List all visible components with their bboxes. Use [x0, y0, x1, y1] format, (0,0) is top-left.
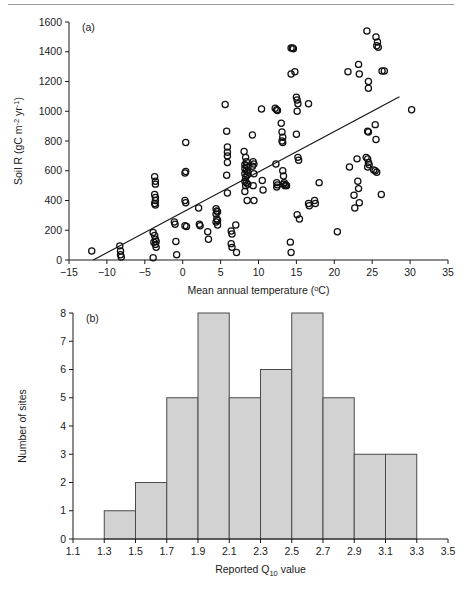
panel-a-y-tick-label: 200 — [44, 224, 62, 236]
panel-a-data-point — [355, 61, 361, 67]
panel-b-x-tick-label: 3.5 — [441, 545, 456, 557]
panel-a-x-tick-label: 25 — [366, 266, 378, 278]
panel-a-data-point — [409, 107, 415, 113]
panel-a-y-tick-label: 1400 — [39, 45, 63, 57]
panel-b-bar — [292, 313, 323, 539]
panel-a-data-point — [293, 131, 299, 137]
panel-a-data-point — [355, 186, 361, 192]
panel-a-data-point — [174, 252, 180, 258]
panel-a-data-point — [356, 200, 362, 206]
panel-a-y-tick-label: 400 — [44, 194, 62, 206]
panel-a-data-point — [294, 108, 300, 114]
panel-a-x-tick-label: 0 — [180, 266, 186, 278]
panel-a-x-axis-title: Mean annual temperature (oC) — [188, 284, 330, 296]
panel-a-data-point — [352, 205, 358, 211]
panel-b-x-tick-label: 2.7 — [316, 545, 331, 557]
panel-b-bar — [198, 313, 229, 539]
panel-a-x-tick-label: 15 — [291, 266, 303, 278]
panel-a-label: (a) — [82, 21, 95, 33]
panel-a-data-point — [89, 248, 95, 254]
panel-b-x-tick-label: 3.1 — [378, 545, 393, 557]
panel-a-data-point — [224, 128, 230, 134]
panel-a-data-point — [316, 180, 322, 186]
panel-b-y-tick-label: 8 — [60, 307, 66, 319]
panel-a-data-point — [260, 187, 266, 193]
panel-b-y-tick-label: 3 — [60, 448, 66, 460]
panel-b-bar — [229, 398, 260, 539]
panel-a-data-point — [251, 197, 257, 203]
panel-a-data-point — [224, 190, 230, 196]
panel-a-data-point — [355, 178, 361, 184]
panel-a-data-point — [233, 222, 239, 228]
panel-a-data-point — [249, 132, 255, 138]
panel-b-label: (b) — [86, 312, 99, 324]
panel-b-x-axis-title: Reported Q10 value — [215, 563, 306, 578]
panel-a-x-tick-label: 10 — [253, 266, 265, 278]
panel-b-x-tick-label: 3.3 — [409, 545, 424, 557]
panel-a-data-point — [224, 172, 230, 178]
panel-b-bar — [386, 454, 417, 539]
panel-a-data-point — [288, 249, 294, 255]
panel-a-data-point — [241, 148, 247, 154]
panel-a-data-point — [365, 78, 371, 84]
panel-a-data-point — [233, 249, 239, 255]
panel-a-data-point — [334, 229, 340, 235]
panel-a-data-point — [356, 71, 362, 77]
panel-a-data-point — [244, 197, 250, 203]
panel-a-x-tick-label: 30 — [404, 266, 416, 278]
figure-canvas: 02004006008001000120014001600−15−10−5051… — [0, 0, 462, 592]
figure-container: 02004006008001000120014001600−15−10−5051… — [0, 0, 462, 592]
panel-a-data-point — [345, 69, 351, 75]
panel-b-x-tick-label: 1.7 — [159, 545, 174, 557]
panel-b-y-tick-label: 2 — [60, 476, 66, 488]
panel-a-x-tick-label: 35 — [442, 266, 454, 278]
panel-b-y-tick-label: 4 — [60, 420, 66, 432]
panel-a-data-point — [295, 101, 301, 107]
panel-b-x-tick-label: 2.1 — [222, 545, 237, 557]
panel-a-data-point — [365, 85, 371, 91]
panel-a-x-tick-label: −5 — [139, 266, 151, 278]
panel-b-x-tick-label: 1.1 — [66, 545, 81, 557]
panel-a-y-tick-label: 600 — [44, 164, 62, 176]
panel-b-y-tick-label: 0 — [60, 533, 66, 545]
panel-a-data-point — [372, 122, 378, 128]
panel-b-bar — [323, 398, 354, 539]
panel-a-data-point — [378, 191, 384, 197]
panel-a-data-point — [373, 136, 379, 142]
panel-a-data-point — [259, 177, 265, 183]
panel-a-data-point — [346, 164, 352, 170]
panel-a-data-point — [287, 239, 293, 245]
panel-a-data-point — [205, 229, 211, 235]
panel-a-data-point — [183, 139, 189, 145]
panel-b-x-tick-label: 2.5 — [284, 545, 299, 557]
panel-a-data-point — [351, 192, 357, 198]
panel-b-bar — [167, 398, 198, 539]
panel-b-bar — [354, 454, 385, 539]
panel-b-bar — [136, 483, 167, 540]
panel-a-data-point — [229, 244, 235, 250]
panel-a-data-point — [354, 156, 360, 162]
panel-b-x-tick-label: 2.3 — [253, 545, 268, 557]
panel-a-x-tick-label: 5 — [218, 266, 224, 278]
panel-b-bar — [261, 370, 292, 540]
panel-a-data-point — [305, 101, 311, 107]
panel-a-y-tick-label: 800 — [44, 135, 62, 147]
panel-b-x-tick-label: 2.9 — [347, 545, 362, 557]
panel-a-data-point — [205, 236, 211, 242]
panel-a-x-tick-label: 20 — [328, 266, 340, 278]
panel-a-data-point — [364, 28, 370, 34]
panel-a-y-tick-label: 1000 — [39, 105, 63, 117]
panel-a-x-tick-label: −10 — [98, 266, 116, 278]
panel-a-data-point — [222, 101, 228, 107]
panel-a-data-point — [173, 238, 179, 244]
panel-b-x-tick-label: 1.9 — [191, 545, 206, 557]
panel-a-y-tick-label: 1200 — [39, 75, 63, 87]
panel-a-data-point — [278, 120, 284, 126]
panel-b-y-axis-title: Number of sites — [16, 389, 28, 463]
panel-b-y-tick-label: 1 — [60, 504, 66, 516]
panel-b-y-tick-label: 7 — [60, 335, 66, 347]
panel-a-y-axis-title: Soil R (gC m-2 yr-1) — [12, 97, 24, 185]
panel-b-y-tick-label: 5 — [60, 391, 66, 403]
panel-a-data-point — [196, 205, 202, 211]
panel-a-data-point — [258, 106, 264, 112]
